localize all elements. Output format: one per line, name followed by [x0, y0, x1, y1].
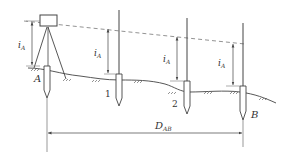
stake-2: iA 2	[163, 18, 190, 114]
distance-dimension-ab: DAB	[48, 120, 242, 133]
point-label-2: 2	[172, 99, 178, 109]
stake-b: iA B	[218, 23, 258, 147]
leveling-diagram: iA A iA 1 iA 2 iA B DAB	[0, 0, 293, 162]
instrument-icon	[40, 15, 57, 26]
stake-1: iA 1	[94, 10, 122, 106]
stake-a: A	[33, 66, 50, 152]
svg-text:DAB: DAB	[154, 120, 172, 132]
point-label-b: B	[250, 109, 258, 120]
ground-line	[28, 68, 276, 103]
svg-text:iA: iA	[18, 40, 26, 51]
svg-text:iA: iA	[163, 54, 171, 65]
svg-text:iA: iA	[218, 58, 226, 69]
svg-text:iA: iA	[94, 48, 102, 59]
point-label-1: 1	[105, 89, 111, 99]
point-label-a: A	[33, 73, 41, 84]
